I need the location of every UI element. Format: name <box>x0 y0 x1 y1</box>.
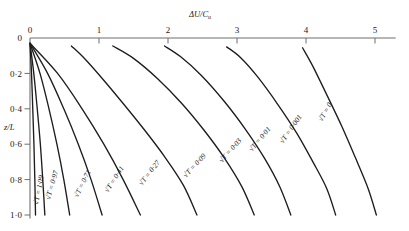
curve-label: √T = 0·09 <box>181 151 208 179</box>
y-tick-label: 1·0 <box>10 210 22 220</box>
x-axis-title: ΔU/Cu <box>188 9 211 20</box>
y-axis <box>25 38 31 219</box>
y-tick-label: 0·4 <box>10 104 22 114</box>
y-tick-label: 0·2 <box>10 69 22 79</box>
curve-labels: √T = 1·09√T = 0·97√T = 0·71√T = 0·41√T =… <box>31 101 334 206</box>
x-tick-label: 3 <box>235 25 240 35</box>
chart-svg: 012345 00·20·40·60·81·0 √T = 1·09√T = 0·… <box>0 0 409 231</box>
x-tick-label: 5 <box>373 25 378 35</box>
curve-label: √T = 0·27 <box>136 158 162 187</box>
y-axis-title: z/L <box>3 122 15 132</box>
curve-label: √T = 0·01 <box>247 125 273 154</box>
curve-0-03 <box>113 46 254 215</box>
curve-label: √T = 0·001 <box>277 113 304 145</box>
y-tick-label: 0·8 <box>10 175 22 185</box>
x-tick-labels: 012345 <box>28 25 378 35</box>
curve-0 <box>303 48 377 215</box>
curve-label: √T = 0 <box>316 101 334 123</box>
x-tick-label: 4 <box>304 25 309 35</box>
curve-0-09 <box>71 46 197 215</box>
x-axis <box>30 38 396 44</box>
x-tick-label: 2 <box>166 25 171 35</box>
chart-figure: 012345 00·20·40·60·81·0 √T = 1·09√T = 0·… <box>0 0 409 231</box>
y-tick-label: 0 <box>18 33 23 43</box>
x-tick-label: 0 <box>28 25 33 35</box>
curve-label: √T = 0·71 <box>72 168 93 199</box>
y-tick-label: 0·6 <box>10 139 22 149</box>
curve-label: √T = 0·03 <box>217 136 244 164</box>
curve-label: √T = 0·97 <box>43 169 60 200</box>
y-axis-ticks <box>25 73 31 215</box>
x-axis-ticks <box>99 38 375 44</box>
x-tick-label: 1 <box>97 25 102 35</box>
